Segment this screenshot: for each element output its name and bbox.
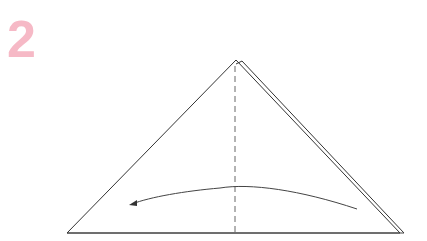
fold-arrow-curve — [132, 186, 357, 209]
origami-fold-diagram — [0, 0, 427, 241]
arrowhead-icon — [129, 200, 137, 206]
